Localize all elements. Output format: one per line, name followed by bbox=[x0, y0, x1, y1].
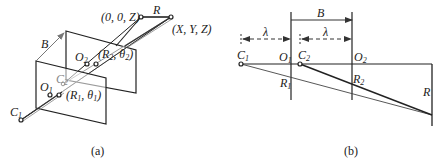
stereo-camera-diagram: (0, 0, Z) R (X, Y, Z) B O2 (R2, θ2) C2 O… bbox=[0, 0, 446, 167]
ray-c1-to-target bbox=[241, 64, 432, 115]
label-B: B bbox=[317, 6, 325, 20]
label-R: R bbox=[422, 85, 431, 99]
label-O1: O1 bbox=[279, 50, 292, 65]
label-C1: C1 bbox=[237, 48, 249, 63]
label-O2: O2 bbox=[354, 50, 367, 65]
label-B: B bbox=[41, 37, 49, 51]
caption-b: (b) bbox=[344, 144, 358, 158]
point-C2 bbox=[298, 62, 302, 66]
panel-b: B λ λ C1 O1 C2 O2 R1 R2 R (b) bbox=[237, 6, 432, 158]
label-lambda-1: λ bbox=[262, 25, 268, 39]
label-lambda-2: λ bbox=[322, 25, 328, 39]
label-target-xyz: (X, Y, Z) bbox=[172, 22, 212, 36]
point-R2-theta2 bbox=[94, 62, 98, 66]
ray-c2-to-target bbox=[300, 64, 432, 115]
label-C1: C1 bbox=[10, 105, 22, 120]
point-R1-theta1 bbox=[57, 93, 61, 97]
point-target-xyz bbox=[169, 15, 173, 19]
label-C2: C2 bbox=[298, 48, 310, 63]
label-R2: R2 bbox=[352, 72, 364, 87]
label-origin-z: (0, 0, Z) bbox=[101, 10, 140, 24]
label-R: R bbox=[152, 3, 161, 17]
caption-a: (a) bbox=[91, 144, 104, 158]
point-C1 bbox=[239, 62, 243, 66]
label-R1: R1 bbox=[279, 76, 291, 91]
panel-a: (0, 0, Z) R (X, Y, Z) B O2 (R2, θ2) C2 O… bbox=[10, 3, 212, 158]
